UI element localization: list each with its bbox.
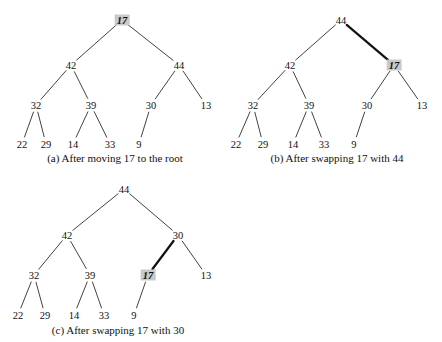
tree-panel-a: 17424432393013222914339(a) After moving … bbox=[0, 0, 221, 171]
tree-node: 22 bbox=[231, 139, 242, 150]
tree-edges-layer bbox=[221, 0, 442, 171]
tree-edge bbox=[296, 25, 336, 60]
tree-edge bbox=[296, 112, 306, 137]
tree-node: 9 bbox=[131, 310, 136, 321]
tree-edge bbox=[255, 112, 261, 136]
tree-node: 32 bbox=[29, 270, 40, 281]
tree-edge bbox=[130, 194, 173, 230]
tree-node: 13 bbox=[201, 270, 212, 281]
tree-edge bbox=[136, 282, 145, 308]
tree-node: 14 bbox=[288, 139, 299, 150]
tree-edge bbox=[77, 282, 87, 308]
tree-edge bbox=[38, 112, 44, 136]
tree-node: 39 bbox=[304, 100, 315, 111]
tree-edge bbox=[182, 241, 201, 269]
tree-node: 44 bbox=[119, 184, 130, 195]
tree-node: 42 bbox=[62, 230, 73, 241]
tree-edge bbox=[76, 112, 88, 137]
tree-edge bbox=[41, 71, 66, 100]
tree-node: 33 bbox=[105, 139, 116, 150]
tree-edges-layer bbox=[0, 172, 225, 342]
panel-caption: (b) After swapping 17 with 44 bbox=[271, 152, 404, 165]
tree-node: 22 bbox=[17, 139, 28, 150]
tree-edge bbox=[21, 282, 31, 308]
tree-edge bbox=[239, 112, 250, 137]
tree-edge bbox=[293, 72, 306, 98]
tree-edge bbox=[25, 112, 34, 137]
tree-edge bbox=[94, 112, 106, 138]
tree-edge bbox=[71, 242, 87, 269]
tree-edge bbox=[141, 112, 149, 137]
tree-edge bbox=[77, 25, 117, 60]
tree-node: 29 bbox=[40, 310, 51, 321]
tree-edge bbox=[36, 282, 43, 308]
panel-caption: (a) After moving 17 to the root bbox=[47, 152, 183, 165]
tree-edge bbox=[371, 71, 390, 99]
tree-edge bbox=[74, 72, 87, 99]
tree-node: 44 bbox=[336, 15, 347, 26]
tree-edge bbox=[155, 71, 174, 99]
tree-node: 33 bbox=[319, 139, 330, 150]
panel-caption: (c) After swapping 17 with 30 bbox=[52, 324, 184, 337]
tree-edge-highlighted bbox=[153, 241, 174, 269]
tree-node: 9 bbox=[136, 139, 141, 150]
tree-node: 42 bbox=[285, 60, 296, 71]
tree-node: 30 bbox=[173, 230, 184, 241]
tree-node: 33 bbox=[99, 310, 110, 321]
heap-sift-down-figure: 17424432393013222914339(a) After moving … bbox=[0, 0, 442, 342]
tree-edge bbox=[258, 71, 285, 100]
tree-node: 13 bbox=[201, 100, 212, 111]
tree-node: 9 bbox=[351, 139, 356, 150]
tree-node: 32 bbox=[31, 100, 42, 111]
tree-node: 42 bbox=[66, 60, 77, 71]
tree-node: 39 bbox=[86, 100, 97, 111]
tree-node: 14 bbox=[68, 139, 79, 150]
tree-node-highlighted: 17 bbox=[115, 15, 130, 26]
tree-node: 14 bbox=[69, 310, 80, 321]
tree-edge bbox=[73, 194, 118, 231]
tree-node: 22 bbox=[13, 310, 24, 321]
tree-edge bbox=[312, 112, 322, 137]
tree-edge bbox=[92, 282, 101, 308]
tree-node: 29 bbox=[41, 139, 52, 150]
tree-node: 30 bbox=[146, 100, 157, 111]
tree-node-highlighted: 17 bbox=[141, 270, 156, 281]
tree-node: 39 bbox=[85, 270, 96, 281]
tree-panel-b: 44421732393013222914339(b) After swappin… bbox=[221, 0, 442, 171]
tree-node: 32 bbox=[248, 100, 259, 111]
tree-edge bbox=[128, 25, 173, 61]
tree-edge bbox=[398, 71, 417, 99]
tree-edge bbox=[183, 71, 202, 99]
tree-edge bbox=[356, 112, 364, 137]
tree-node: 30 bbox=[362, 100, 373, 111]
tree-node-highlighted: 17 bbox=[387, 60, 402, 71]
tree-node: 13 bbox=[417, 100, 428, 111]
tree-node: 29 bbox=[258, 139, 269, 150]
tree-edge bbox=[39, 241, 62, 269]
tree-panel-c: 44423032391713222914339(c) After swappin… bbox=[0, 172, 225, 342]
tree-edge-highlighted bbox=[347, 25, 389, 60]
tree-node: 44 bbox=[174, 60, 185, 71]
